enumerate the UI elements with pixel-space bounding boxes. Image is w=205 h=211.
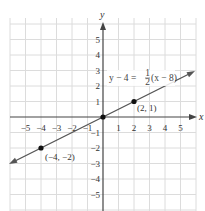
- y-tick: 2: [96, 81, 101, 91]
- y-tick: 4: [96, 50, 101, 60]
- x-tick-labels: −5 −4 −3 −2 −1 1 2 3 4 5: [21, 123, 184, 133]
- x-tick: 1: [116, 123, 121, 133]
- point-label-2-1: (2, 1): [137, 103, 157, 113]
- line-arrow-right-icon: [187, 71, 196, 77]
- y-tick: −3: [90, 159, 100, 169]
- coordinate-plane: x y −5 −4 −3 −2 −1 1 2 3 4 5 5 4 3 2 1 −…: [0, 0, 205, 211]
- y-tick: −1: [90, 128, 100, 138]
- y-tick: −2: [90, 143, 100, 153]
- equation-annotation: y − 4 = 1 2 (x − 8): [107, 68, 177, 87]
- x-tick: 3: [147, 123, 152, 133]
- point-2-1: [131, 99, 136, 104]
- equation-denominator: 2: [145, 77, 150, 87]
- point-neg4-neg2: [38, 145, 43, 150]
- x-tick: 2: [132, 123, 137, 133]
- equation-left: y − 4 =: [109, 73, 136, 83]
- y-tick: −4: [90, 174, 100, 184]
- y-tick: 1: [96, 97, 101, 107]
- x-tick: 5: [178, 123, 183, 133]
- x-tick: −4: [36, 123, 46, 133]
- x-tick: −3: [52, 123, 62, 133]
- x-tick: −5: [21, 123, 31, 133]
- y-tick: 3: [96, 66, 101, 76]
- y-tick: 5: [96, 35, 101, 45]
- y-axis-label: y: [99, 9, 105, 20]
- y-tick: −5: [90, 190, 100, 200]
- y-axis-arrow-icon: [100, 22, 106, 30]
- equation-right: (x − 8): [151, 73, 177, 84]
- point-origin: [100, 114, 105, 119]
- point-label-neg4-neg2: (−4, −2): [45, 152, 75, 162]
- x-axis-label: x: [198, 111, 204, 122]
- x-tick: 4: [163, 123, 168, 133]
